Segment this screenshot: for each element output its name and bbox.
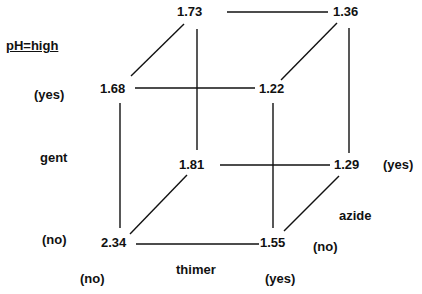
azide-axis-label: azide (339, 209, 372, 223)
gent-no-label: (no) (42, 233, 67, 247)
vertex-front-top-left: 1.68 (100, 82, 125, 96)
condition-title: pH=high (6, 39, 58, 53)
thimer-no-label: (no) (80, 272, 105, 286)
thimer-yes-label: (yes) (265, 272, 295, 286)
gent-yes-label: (yes) (34, 88, 64, 102)
cube-edges (0, 0, 422, 294)
gent-axis-label: gent (40, 151, 67, 165)
edge-depth-top-right (281, 23, 337, 80)
vertex-back-top-left: 1.73 (177, 5, 202, 19)
vertex-front-bottom-left: 2.34 (101, 236, 126, 250)
edge-depth-top-left (131, 24, 184, 76)
vertex-front-bottom-right: 1.55 (260, 236, 285, 250)
vertex-back-bottom-right: 1.29 (334, 158, 359, 172)
azide-yes-label: (yes) (383, 158, 413, 172)
vertex-back-top-right: 1.36 (333, 5, 358, 19)
vertex-back-bottom-left: 1.81 (179, 158, 204, 172)
vertex-front-top-right: 1.22 (259, 82, 284, 96)
edge-depth-bottom-left (130, 175, 187, 234)
azide-no-label: (no) (313, 240, 338, 254)
edge-depth-bottom-right (284, 176, 339, 231)
thimer-axis-label: thimer (176, 263, 216, 277)
